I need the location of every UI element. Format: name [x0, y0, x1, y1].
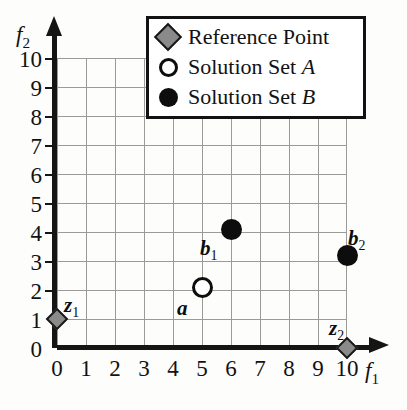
- y-tick-7: [45, 145, 53, 147]
- x-axis-arrow-icon: [369, 337, 389, 353]
- y-tick-label-0: 0: [2, 338, 42, 361]
- data-label-a: a: [177, 298, 188, 319]
- x-tick-label-10: 10: [332, 357, 362, 380]
- x-tick-label-6: 6: [216, 357, 246, 380]
- x-tick-label-1: 1: [71, 357, 101, 380]
- data-label-b1-sub: 1: [211, 248, 218, 263]
- x-tick-label-0: 0: [42, 357, 72, 380]
- data-label-b1-main: b: [200, 236, 211, 260]
- legend-label-solution-set-a: Solution Set A: [181, 56, 315, 78]
- y-tick-label-5: 5: [2, 193, 42, 216]
- y-tick-6: [45, 174, 53, 176]
- x-axis-title-sub: 1: [371, 370, 379, 387]
- y-tick-2: [45, 290, 53, 292]
- y-tick-3: [45, 261, 53, 263]
- x-tick-label-3: 3: [129, 357, 159, 380]
- legend-label-solution-set-b-symbol: B: [302, 84, 315, 109]
- data-label-z1-sub: 1: [72, 305, 79, 320]
- x-tick-label-8: 8: [274, 357, 304, 380]
- y-tick-5: [45, 203, 53, 205]
- gridline-v-1: [86, 58, 87, 348]
- data-label-z2: z2: [329, 318, 344, 343]
- y-tick-10: [45, 58, 53, 60]
- legend: Reference Point Solution Set A Solution …: [146, 16, 366, 119]
- data-label-a-main: a: [177, 296, 188, 320]
- circle-filled-icon: [155, 88, 181, 107]
- data-label-z2-main: z: [329, 316, 337, 340]
- y-tick-label-3: 3: [2, 251, 42, 274]
- y-tick-4: [45, 232, 53, 234]
- y-tick-label-4: 4: [2, 222, 42, 245]
- legend-item-reference-point[interactable]: Reference Point: [155, 22, 357, 52]
- data-point-a[interactable]: [192, 277, 213, 298]
- y-axis-title: f2: [16, 22, 30, 52]
- y-tick-label-7: 7: [2, 135, 42, 158]
- data-label-z1-main: z: [64, 293, 72, 317]
- circle-hollow-icon: [155, 58, 181, 77]
- scatter-plot-figure: 10 9 8 7 6 5 4 3 2 1 0 0 1 2 3 4 5 6 7 8…: [0, 0, 407, 410]
- y-axis-title-sub: 2: [22, 34, 30, 51]
- data-label-b1: b1: [200, 238, 217, 263]
- y-tick-label-9: 9: [2, 77, 42, 100]
- legend-label-solution-set-a-text: Solution Set: [188, 54, 302, 79]
- diamond-icon: [155, 27, 181, 47]
- y-axis-arrow-icon: [46, 16, 62, 36]
- legend-label-solution-set-b: Solution Set B: [181, 86, 315, 108]
- y-axis-line: [52, 34, 57, 348]
- legend-label-solution-set-b-text: Solution Set: [188, 84, 302, 109]
- y-tick-label-8: 8: [2, 106, 42, 129]
- legend-item-solution-set-a[interactable]: Solution Set A: [155, 52, 357, 82]
- y-tick-label-2: 2: [2, 280, 42, 303]
- data-point-b1[interactable]: [221, 219, 242, 240]
- y-tick-8: [45, 116, 53, 118]
- x-tick-label-5: 5: [187, 357, 217, 380]
- gridline-v-2: [115, 58, 116, 348]
- x-tick-label-9: 9: [303, 357, 333, 380]
- data-label-b2: b2: [348, 228, 365, 253]
- x-tick-label-7: 7: [245, 357, 275, 380]
- x-axis-title: f1: [365, 358, 379, 388]
- data-label-z2-sub: 2: [337, 328, 344, 343]
- data-label-b2-sub: 2: [359, 238, 366, 253]
- gridline-v-3: [144, 58, 145, 348]
- x-tick-label-2: 2: [100, 357, 130, 380]
- gridline-v-0: [57, 58, 58, 348]
- x-axis-line: [57, 345, 374, 350]
- x-tick-label-4: 4: [158, 357, 188, 380]
- y-tick-label-1: 1: [2, 309, 42, 332]
- y-tick-label-6: 6: [2, 164, 42, 187]
- data-label-b2-main: b: [348, 226, 359, 250]
- legend-label-reference-point: Reference Point: [181, 26, 329, 48]
- data-label-z1: z1: [64, 295, 79, 320]
- legend-item-solution-set-b[interactable]: Solution Set B: [155, 82, 357, 112]
- y-tick-9: [45, 87, 53, 89]
- legend-label-solution-set-a-symbol: A: [302, 54, 315, 79]
